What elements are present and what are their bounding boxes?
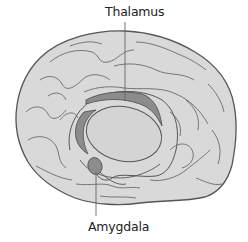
thalamus-label: Thalamus <box>105 4 164 19</box>
brain-illustration <box>0 0 248 242</box>
amygdala-label: Amygdala <box>88 219 149 234</box>
brain-diagram: Thalamus Amygdala <box>0 0 248 242</box>
